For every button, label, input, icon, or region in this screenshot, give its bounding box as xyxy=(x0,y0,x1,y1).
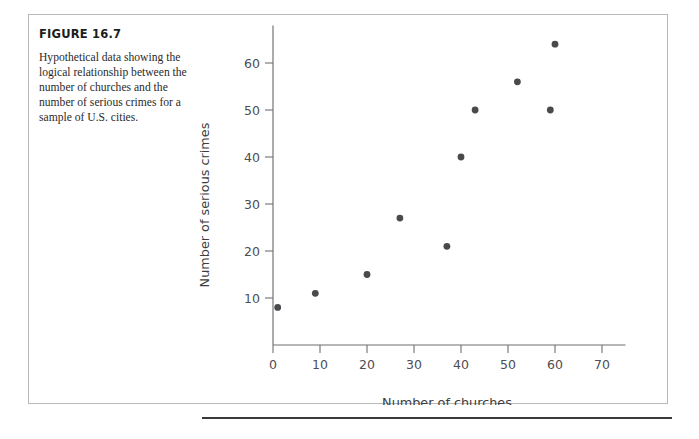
data-point xyxy=(444,243,451,250)
y-tick-label-40: 40 xyxy=(244,150,260,165)
y-tick-label-10: 10 xyxy=(244,291,260,306)
scatter-plot: 102030405060 010203040506070 Number of c… xyxy=(29,15,669,405)
data-point xyxy=(274,304,281,311)
y-tick-label-20: 20 xyxy=(244,244,260,259)
data-point xyxy=(312,290,319,297)
x-tick-label-60: 60 xyxy=(547,357,563,372)
x-tick-label-10: 10 xyxy=(312,357,328,372)
y-tick-label-30: 30 xyxy=(244,197,260,212)
x-tick-label-40: 40 xyxy=(453,357,469,372)
data-point xyxy=(514,78,521,85)
figure-frame: FIGURE 16.7 Hypothetical data showing th… xyxy=(28,14,668,404)
data-points xyxy=(274,41,558,311)
x-tick-label-70: 70 xyxy=(594,357,610,372)
y-axis-title: Number of serious crimes xyxy=(197,122,212,287)
x-tick-label-20: 20 xyxy=(359,357,375,372)
y-axis: 102030405060 xyxy=(244,25,273,345)
data-point xyxy=(397,215,404,222)
data-point xyxy=(364,271,371,278)
scatter-plot-svg: 102030405060 010203040506070 Number of c… xyxy=(29,15,669,405)
y-tick-label-50: 50 xyxy=(244,103,260,118)
y-tick-label-60: 60 xyxy=(244,56,260,71)
x-tick-label-30: 30 xyxy=(406,357,422,372)
data-point xyxy=(552,41,559,48)
x-axis-title: Number of churches xyxy=(382,395,512,405)
data-point xyxy=(458,154,465,161)
data-point xyxy=(472,107,479,114)
data-point xyxy=(547,107,554,114)
x-axis: 010203040506070 xyxy=(269,345,625,372)
x-tick-label-0: 0 xyxy=(269,357,277,372)
bottom-divider-rule xyxy=(202,417,672,419)
x-tick-label-50: 50 xyxy=(500,357,516,372)
